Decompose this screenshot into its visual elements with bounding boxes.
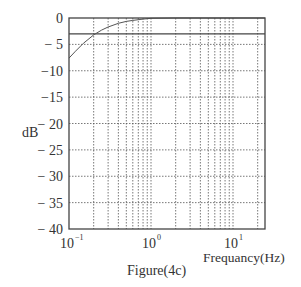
x-tick-exponent: 0 (157, 233, 161, 242)
chart-figure: 0− 5−10−15− 20− 25− 30− 35− 40 10−110010… (0, 0, 301, 287)
x-tick-labels: 10−1100101 (60, 233, 243, 251)
x-tick-label: 10 (60, 236, 74, 251)
x-tick-exponent: 1 (239, 233, 243, 242)
y-tick-label: −10 (41, 64, 63, 79)
y-tick-label: − 40 (38, 222, 63, 237)
plot-frame (69, 18, 265, 229)
y-tick-label: − 35 (38, 196, 63, 211)
x-axis-label: Frequancy(Hz) (203, 250, 285, 265)
y-tick-label: −15 (41, 90, 63, 105)
y-tick-label: 0 (56, 11, 63, 26)
y-axis-label: dB (22, 125, 38, 140)
y-tick-label: − 20 (38, 117, 63, 132)
y-tick-label: − 30 (38, 169, 63, 184)
grid-lines (69, 18, 265, 229)
x-tick-label: 10 (224, 236, 238, 251)
figure-caption: Figure(4c) (127, 263, 186, 279)
response-curve (69, 18, 265, 58)
x-tick-label: 10 (142, 236, 156, 251)
x-tick-exponent: −1 (75, 233, 84, 242)
y-tick-label: − 5 (45, 37, 63, 52)
y-tick-label: − 25 (38, 143, 63, 158)
y-tick-labels: 0− 5−10−15− 20− 25− 30− 35− 40 (38, 11, 63, 237)
